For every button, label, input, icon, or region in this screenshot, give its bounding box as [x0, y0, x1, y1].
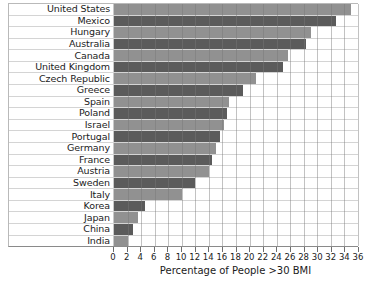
country-label: Japan — [84, 213, 110, 223]
bar-cell — [114, 155, 358, 166]
country-label-cell: Israel — [9, 120, 114, 131]
plot-area: United StatesMexicoHungaryAustraliaCanad… — [8, 3, 358, 247]
country-label: Spain — [84, 97, 110, 107]
bar — [114, 85, 243, 96]
country-label-cell: Mexico — [9, 16, 114, 27]
table-row: India — [9, 236, 358, 247]
country-label: Poland — [79, 108, 110, 118]
table-row: United Kingdom — [9, 62, 358, 74]
gridline — [358, 4, 359, 246]
country-label: Sweden — [73, 178, 110, 188]
country-label: France — [79, 155, 110, 165]
table-row: Poland — [9, 108, 358, 120]
bar — [114, 131, 220, 142]
bar — [114, 178, 195, 189]
axis-tick-label: 4 — [138, 252, 143, 263]
bar — [114, 4, 351, 15]
country-label-cell: Austria — [9, 166, 114, 177]
axis-tick-label: 22 — [257, 252, 268, 263]
table-row: Hungary — [9, 27, 358, 39]
country-label-cell: India — [9, 236, 114, 247]
country-label-cell: Germany — [9, 143, 114, 154]
axis-tick-label: 36 — [353, 252, 364, 263]
axis-tick-label: 32 — [325, 252, 336, 263]
table-row: Austria — [9, 166, 358, 178]
country-label-cell: Poland — [9, 108, 114, 119]
bar — [114, 120, 224, 131]
table-row: United States — [9, 4, 358, 16]
bar-cell — [114, 212, 358, 223]
axis-tick-label: 8 — [165, 252, 170, 263]
bar — [114, 97, 229, 108]
country-label-cell: Czech Republic — [9, 73, 114, 84]
table-row: Canada — [9, 50, 358, 62]
axis-tick-label: 6 — [151, 252, 156, 263]
bar-rows: United StatesMexicoHungaryAustraliaCanad… — [9, 4, 358, 246]
axis-tick-label: 30 — [312, 252, 323, 263]
table-row: Israel — [9, 120, 358, 132]
bar-cell — [114, 166, 358, 177]
bmi-obesity-bar-chart: United StatesMexicoHungaryAustraliaCanad… — [0, 0, 366, 286]
axis-tick-label: 16 — [216, 252, 227, 263]
table-row: Germany — [9, 143, 358, 155]
country-label-cell: China — [9, 224, 114, 235]
country-label: Israel — [85, 120, 110, 130]
country-label: Greece — [77, 85, 110, 95]
bar — [114, 16, 336, 27]
country-label: Germany — [67, 143, 110, 153]
country-label: United States — [47, 4, 110, 14]
country-label-cell: Canada — [9, 50, 114, 61]
country-label-cell: Italy — [9, 189, 114, 200]
axis-tick-label: 28 — [298, 252, 309, 263]
country-label-cell: Spain — [9, 97, 114, 108]
bar-cell — [114, 108, 358, 119]
bar — [114, 39, 306, 50]
bar-cell — [114, 73, 358, 84]
bar-cell — [114, 143, 358, 154]
axis-tick-label: 20 — [244, 252, 255, 263]
bar — [114, 155, 212, 166]
axis-tick-label: 26 — [285, 252, 296, 263]
axis-tick-label: 0 — [110, 252, 115, 263]
x-axis-title: Percentage of People >30 BMI — [113, 264, 358, 277]
bar — [114, 201, 145, 212]
country-label-cell: Korea — [9, 201, 114, 212]
bar — [114, 189, 182, 200]
bar — [114, 73, 256, 84]
bar — [114, 62, 283, 73]
table-row: Italy — [9, 189, 358, 201]
table-row: Portugal — [9, 131, 358, 143]
bar — [114, 27, 311, 38]
bar — [114, 108, 227, 119]
country-label-cell: Sweden — [9, 178, 114, 189]
table-row: Australia — [9, 39, 358, 51]
bar — [114, 50, 288, 61]
country-label: Italy — [90, 190, 110, 200]
country-label: United Kingdom — [35, 62, 110, 72]
table-row: Greece — [9, 85, 358, 97]
bar-cell — [114, 16, 358, 27]
table-row: France — [9, 155, 358, 167]
table-row: Mexico — [9, 16, 358, 28]
x-axis-tick-labels: 024681012141618202224262830323436 — [113, 252, 358, 263]
axis-tick-label: 34 — [339, 252, 350, 263]
country-label-cell: Japan — [9, 212, 114, 223]
axis-tick-label: 12 — [189, 252, 200, 263]
country-label-cell: Hungary — [9, 27, 114, 38]
bar-cell — [114, 178, 358, 189]
country-label: China — [83, 224, 110, 234]
bar — [114, 166, 209, 177]
country-label-cell: United States — [9, 4, 114, 15]
bar-cell — [114, 224, 358, 235]
bar-cell — [114, 85, 358, 96]
axis-tick-label: 18 — [230, 252, 241, 263]
bar — [114, 224, 133, 235]
country-label: Australia — [69, 39, 110, 49]
country-label: Austria — [77, 166, 110, 176]
country-label: Hungary — [70, 27, 110, 37]
bar — [114, 236, 128, 247]
bar-cell — [114, 97, 358, 108]
bar — [114, 212, 138, 223]
country-label: Portugal — [71, 132, 110, 142]
country-label: Korea — [84, 201, 110, 211]
